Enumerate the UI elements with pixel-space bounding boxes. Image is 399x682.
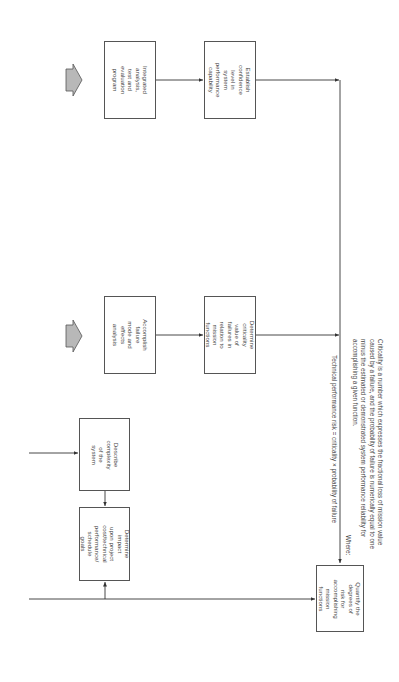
box-describe-complexity-label: Describe complexity of the system	[90, 440, 120, 469]
box-describe-complexity: Describe complexity of the system	[79, 418, 130, 491]
risk-formula: Technical performance risk = criticality…	[331, 355, 338, 523]
box-quantify-risk-label: Quantify the degrees of risk for accompl…	[318, 579, 362, 618]
box-determine-impact: Determine impact upon project cost/techn…	[79, 507, 130, 581]
where-definition: Criticality is a number which expresses …	[350, 339, 384, 549]
box-accomplish-fmea: Accomplish failure mode and effects anal…	[104, 296, 156, 374]
box-establish-confidence-label: Establish confidence level in system per…	[208, 63, 252, 98]
input-arrow-1-icon	[66, 64, 82, 96]
flow-diagram: Integrated analysis, test and evaluation…	[0, 0, 399, 682]
input-arrow-2-icon	[66, 320, 82, 352]
box-accomplish-fmea-label: Accomplish failure mode and effects anal…	[111, 319, 148, 351]
box-establish-confidence: Establish confidence level in system per…	[204, 41, 256, 119]
box-integrated-analysis-label: Integrated analysis, test and evaluation…	[111, 66, 148, 94]
box-determine-criticality: Determine criticality value of failures …	[204, 296, 256, 374]
box-quantify-risk: Quantify the degrees of risk for accompl…	[316, 565, 364, 632]
box-integrated-analysis: Integrated analysis, test and evaluation…	[104, 41, 156, 119]
box-determine-criticality-label: Determine criticality value of failures …	[204, 321, 256, 350]
box-determine-impact-label: Determine impact upon project cost/techn…	[79, 525, 131, 563]
